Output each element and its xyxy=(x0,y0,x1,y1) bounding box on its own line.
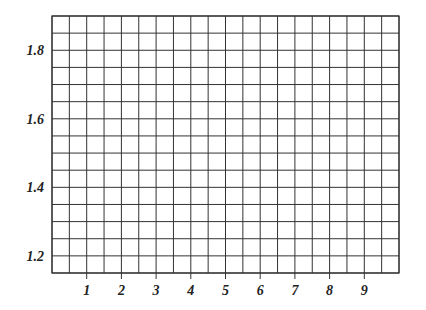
x-tick-label: 2 xyxy=(117,283,125,298)
x-axis-tick-labels: 123456789 xyxy=(83,283,368,298)
x-tick-label: 9 xyxy=(361,283,368,298)
grid-chart: 123456789 1.21.41.61.8 xyxy=(0,0,426,310)
x-tick-label: 1 xyxy=(83,283,90,298)
x-axis-ticks xyxy=(87,273,365,279)
y-tick-label: 1.4 xyxy=(27,180,45,195)
vertical-gridlines xyxy=(52,16,399,273)
x-tick-label: 7 xyxy=(291,283,299,298)
y-axis-tick-labels: 1.21.41.61.8 xyxy=(27,43,45,264)
y-tick-label: 1.6 xyxy=(27,112,45,127)
x-tick-label: 3 xyxy=(152,283,160,298)
x-tick-label: 5 xyxy=(222,283,229,298)
x-tick-label: 4 xyxy=(186,283,194,298)
y-tick-label: 1.2 xyxy=(27,249,45,264)
y-tick-label: 1.8 xyxy=(27,43,45,58)
x-tick-label: 6 xyxy=(257,283,264,298)
x-tick-label: 8 xyxy=(326,283,333,298)
chart-canvas: 123456789 1.21.41.61.8 xyxy=(0,0,426,310)
